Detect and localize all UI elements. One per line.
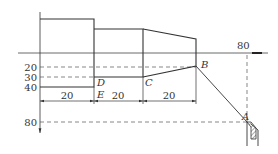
tool-path-line	[196, 66, 247, 122]
dim-label-1: 20	[61, 90, 74, 101]
x-label-80: 80	[237, 40, 250, 51]
cutting-tool-icon	[247, 122, 258, 146]
point-label-c: C	[145, 77, 153, 88]
y-label-40: 40	[24, 82, 37, 93]
y-label-80: 80	[24, 117, 37, 128]
point-label-e: E	[96, 89, 105, 100]
point-label-b: B	[200, 59, 208, 70]
dim-label-3: 20	[163, 90, 176, 101]
dim-label-2: 20	[112, 90, 125, 101]
point-label-a: A	[241, 111, 249, 122]
point-label-d: D	[96, 77, 105, 88]
tool-path-diagram: 20 30 40 80 80 20 20 20 D E C B A	[0, 0, 278, 154]
